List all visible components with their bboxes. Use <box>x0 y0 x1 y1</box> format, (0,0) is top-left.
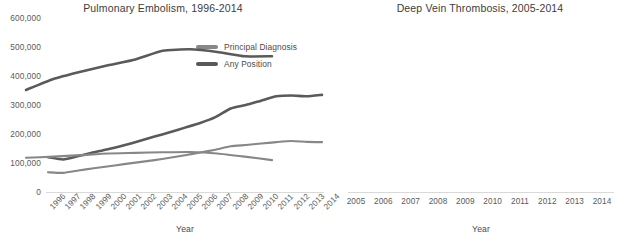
x-axis-tick-label: 2014 <box>593 197 612 206</box>
series-line-principal-diagnosis <box>26 152 272 160</box>
x-axis-tick-label: 2006 <box>374 197 393 206</box>
chart-title-left: Pulmonary Embolism, 1996-2014 <box>18 2 308 14</box>
x-axis-tick-label: 2003 <box>155 192 175 212</box>
x-axis-tick-label: 2008 <box>429 197 448 206</box>
x-axis-tick-label: 2009 <box>456 197 475 206</box>
x-axis-tick-label: 2004 <box>170 192 190 212</box>
x-axis-tick-label: 2011 <box>511 197 529 206</box>
x-axis-line-right <box>348 192 614 193</box>
x-axis-tick-label: 2007 <box>401 197 420 206</box>
chart-title-right: Deep Vein Thrombosis, 2005-2014 <box>340 2 620 14</box>
figure-container: Pulmonary Embolism, 1996-2014 0100,00020… <box>0 0 630 243</box>
x-axis-tick-label: 2013 <box>307 192 327 212</box>
x-axis-title-right: Year <box>348 224 614 234</box>
x-axis-tick-label: 2010 <box>483 197 502 206</box>
x-axis-tick-label: 2012 <box>292 192 312 212</box>
x-axis-tick-label: 2013 <box>565 197 584 206</box>
x-axis-tick-label: 1999 <box>94 192 114 212</box>
x-axis-tick-label: 2011 <box>276 192 295 211</box>
x-axis-tick-label: 1998 <box>78 192 98 212</box>
series-line-any-position <box>26 49 272 90</box>
x-axis-tick-label: 2007 <box>215 192 235 212</box>
x-axis-tick-label: 2012 <box>538 197 557 206</box>
x-axis-tick-label: 2008 <box>231 192 251 212</box>
x-axis-tick-label: 2002 <box>139 192 159 212</box>
x-axis-tick-label: 2005 <box>347 197 366 206</box>
plot-area-right <box>18 18 280 194</box>
x-axis-title-left: Year <box>46 224 324 234</box>
